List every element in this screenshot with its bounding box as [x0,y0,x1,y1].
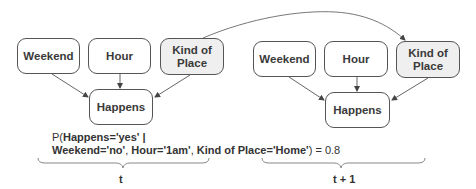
brace-t [38,158,209,168]
node-label-line1: Kind of [172,44,212,57]
node-kind-of-place-t: Kind of Place [160,38,224,75]
node-label-line2: Place [413,60,443,73]
edge-kop-happens-t1 [392,78,428,100]
node-hour-t: Hour [88,38,151,74]
brace-t1 [262,158,425,168]
edge-kop-happens-t [155,75,190,97]
diagram-edges [0,0,476,189]
edge-kop-t-to-kop-t1 [203,12,405,40]
node-label: Happens [333,104,382,117]
node-weekend-t1: Weekend [253,41,316,77]
formula-line2: Weekend='no', Hour='1am', Kind of Place=… [52,144,340,157]
node-kind-of-place-t1: Kind of Place [396,41,460,78]
slice-label-t1: t + 1 [333,173,355,185]
edge-weekend-happens-t [52,74,88,97]
node-happens-t1: Happens [325,92,390,128]
node-label: Happens [97,101,146,114]
node-label: Weekend [259,53,309,66]
node-label-line1: Kind of [408,47,448,60]
node-label: Weekend [23,50,73,63]
node-weekend-t: Weekend [17,38,80,74]
formula-line1: P(Happens='yes' | [52,131,340,144]
slice-label-t: t [119,173,123,185]
node-happens-t: Happens [89,89,153,125]
node-label-line2: Place [177,57,207,70]
node-label: Hour [343,53,370,66]
node-label: Hour [106,50,133,63]
node-hour-t1: Hour [324,41,388,77]
probability-formula: P(Happens='yes' | Weekend='no', Hour='1a… [52,131,340,157]
edge-weekend-happens-t1 [289,77,324,100]
